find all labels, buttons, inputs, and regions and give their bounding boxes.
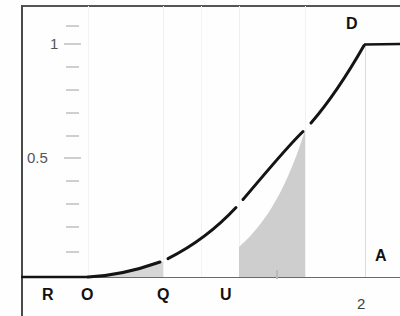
x-tick-label-O: O bbox=[81, 287, 93, 303]
figure-canvas: 1 0.5 R O Q U 2 D A bbox=[0, 0, 400, 316]
x-tick-label-Q: Q bbox=[157, 287, 169, 303]
y-tick-label-0-5: 0.5 bbox=[27, 150, 48, 165]
shaded-region-U bbox=[239, 131, 305, 278]
gridlines bbox=[88, 6, 365, 277]
curve-path bbox=[88, 46, 364, 278]
x-tick-label-R: R bbox=[42, 287, 54, 303]
x-tick-label-2: 2 bbox=[357, 296, 365, 311]
point-label-A: A bbox=[375, 248, 387, 264]
y-tick-label-1: 1 bbox=[50, 36, 58, 51]
plateau-line bbox=[364, 44, 400, 45]
y-axis-ticks bbox=[64, 26, 81, 252]
x-tick-label-U: U bbox=[220, 287, 232, 303]
plot-graphics bbox=[0, 0, 400, 316]
point-label-D: D bbox=[346, 16, 358, 32]
